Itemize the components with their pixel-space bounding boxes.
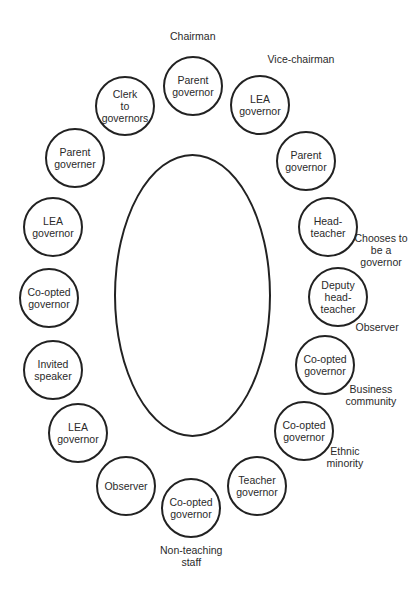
seat-15: Parent governer bbox=[45, 128, 105, 188]
seat-label: Co-opted governor bbox=[280, 419, 327, 443]
seat-label: LEA governor bbox=[237, 93, 282, 117]
seat-4: Head- teacher bbox=[298, 197, 358, 257]
seat-label: Head- teacher bbox=[308, 215, 347, 239]
seat-14: LEA governor bbox=[23, 197, 83, 257]
note-business: Business community bbox=[346, 383, 397, 407]
seat-label: Co-opted governor bbox=[301, 353, 348, 377]
seat-label: Co-opted governor bbox=[167, 496, 214, 520]
seat-label: LEA governor bbox=[30, 215, 75, 239]
seat-label: Co-opted governor bbox=[25, 286, 72, 310]
seat-label: Clerk to governors bbox=[100, 88, 151, 124]
note-observer: Observer bbox=[356, 321, 399, 333]
seat-11: LEA governor bbox=[48, 403, 108, 463]
seat-1: Parent governor bbox=[163, 56, 223, 116]
seat-label: Parent governor bbox=[170, 74, 215, 98]
seat-12: Invited speaker bbox=[23, 340, 83, 400]
seat-label: Invited speaker bbox=[32, 358, 73, 382]
note-chairman: Chairman bbox=[170, 30, 216, 42]
seat-8: Teacher governor bbox=[227, 456, 287, 516]
note-nonteaching: Non-teaching staff bbox=[160, 544, 222, 568]
seat-label: LEA governor bbox=[55, 421, 100, 445]
seat-13: Co-opted governor bbox=[19, 268, 79, 328]
seat-16: Clerk to governors bbox=[95, 76, 155, 136]
seat-label: Deputy head- teacher bbox=[318, 279, 357, 315]
seat-5: Deputy head- teacher bbox=[308, 267, 368, 327]
seat-3: Parent governor bbox=[276, 131, 336, 191]
seating-diagram: Parent governorLEA governorParent govern… bbox=[0, 0, 420, 592]
seat-10: Observer bbox=[96, 456, 156, 516]
seat-7: Co-opted governor bbox=[274, 401, 334, 461]
seat-9: Co-opted governor bbox=[161, 478, 221, 538]
seat-label: Observer bbox=[102, 480, 149, 492]
note-vice: Vice-chairman bbox=[268, 53, 335, 65]
note-chooses: Chooses to be a governor bbox=[355, 232, 408, 268]
seat-label: Teacher governor bbox=[234, 474, 279, 498]
meeting-table bbox=[114, 154, 271, 437]
note-ethnic: Ethnic minority bbox=[327, 445, 364, 469]
seat-label: Parent governer bbox=[52, 146, 97, 170]
seat-2: LEA governor bbox=[230, 75, 290, 135]
seat-label: Parent governor bbox=[283, 149, 328, 173]
